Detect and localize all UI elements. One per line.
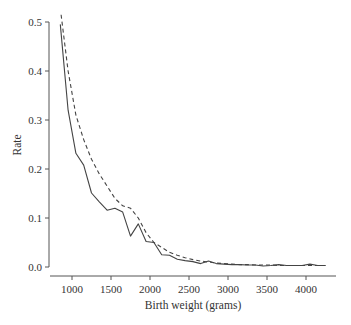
- x-tick-label: 2000: [139, 283, 162, 295]
- x-tick-label: 4000: [295, 283, 318, 295]
- x-tick-label: 3500: [256, 283, 279, 295]
- y-tick-label: 0.2: [28, 163, 42, 175]
- series-fitted-line: [61, 15, 325, 266]
- line-chart: 0.00.10.20.30.40.5 100015002000250030003…: [0, 0, 351, 325]
- y-tick-label: 0.4: [28, 65, 42, 77]
- y-axis: 0.00.10.20.30.40.5: [28, 16, 49, 273]
- y-tick-label: 0.5: [28, 16, 42, 28]
- series-observed-line: [60, 24, 325, 266]
- x-tick-label: 3000: [217, 283, 240, 295]
- x-tick-label: 1000: [61, 283, 84, 295]
- y-axis-title: Rate: [11, 134, 23, 155]
- x-axis-title: Birth weight (grams): [145, 299, 242, 312]
- y-tick-label: 0.1: [28, 212, 42, 224]
- x-axis: 1000150020002500300035004000: [50, 276, 336, 295]
- x-tick-label: 1500: [100, 283, 123, 295]
- y-tick-label: 0.3: [28, 114, 42, 126]
- y-tick-label: 0.0: [28, 261, 42, 273]
- plot-series: [60, 15, 325, 266]
- x-tick-label: 2500: [178, 283, 201, 295]
